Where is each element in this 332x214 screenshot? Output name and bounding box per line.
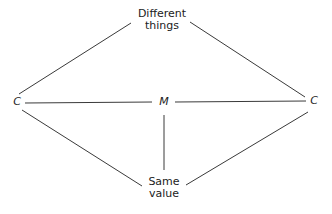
node-different-things: Different things bbox=[126, 8, 198, 32]
node-left-c: C bbox=[10, 96, 24, 108]
node-bottom-line2: value bbox=[134, 188, 194, 200]
node-top-line2: things bbox=[126, 20, 198, 32]
node-same-value: Same value bbox=[134, 176, 194, 200]
edge-center-right bbox=[175, 101, 306, 102]
edge-top-right bbox=[190, 22, 305, 97]
node-right-c: C bbox=[307, 95, 321, 107]
edge-left-top bbox=[19, 23, 131, 94]
edge-bottom-right bbox=[186, 112, 308, 185]
node-center-m: M bbox=[156, 96, 172, 108]
edge-left-center bbox=[25, 102, 152, 103]
edge-left-bottom bbox=[22, 110, 142, 186]
